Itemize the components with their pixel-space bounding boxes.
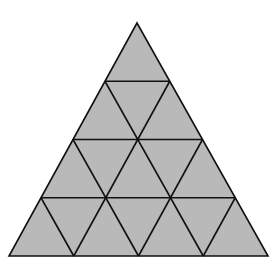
diagram-stage xyxy=(0,0,278,275)
subdivided-triangle-diagram xyxy=(0,0,278,275)
